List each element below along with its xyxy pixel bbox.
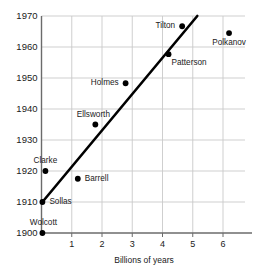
axis-spines bbox=[42, 16, 253, 233]
y-tick-label: 1900 bbox=[16, 228, 37, 238]
data-point-label: Sollas bbox=[49, 198, 71, 206]
gridlines bbox=[42, 16, 246, 233]
x-tick-label: 3 bbox=[122, 240, 142, 249]
y-tick-label: 1970 bbox=[16, 11, 37, 21]
x-tick-label: 2 bbox=[92, 240, 112, 249]
data-point-label: Wolcott bbox=[30, 219, 57, 227]
x-tick-label: 6 bbox=[213, 240, 233, 249]
data-point-marker bbox=[179, 23, 185, 29]
data-point-marker bbox=[75, 176, 81, 182]
x-axis-title: Billions of years bbox=[0, 256, 258, 265]
x-tick-label: 4 bbox=[153, 240, 173, 249]
y-tick-label: 1930 bbox=[16, 135, 37, 145]
y-tick-label: 1940 bbox=[16, 104, 37, 114]
data-point-marker bbox=[40, 199, 46, 205]
data-point-marker bbox=[43, 168, 49, 174]
data-point-label: Tilton bbox=[155, 22, 175, 30]
data-point-label: Clarke bbox=[34, 157, 58, 165]
data-point-marker bbox=[226, 30, 232, 36]
data-point-label: Holmes bbox=[91, 79, 119, 87]
x-tick-label: 5 bbox=[183, 240, 203, 249]
x-tick-label: 1 bbox=[62, 240, 82, 249]
y-tick-label: 1910 bbox=[16, 197, 37, 207]
y-tick-label: 1920 bbox=[16, 166, 37, 176]
data-point-marker bbox=[123, 80, 129, 86]
data-point-label: Polkanov bbox=[212, 39, 246, 47]
data-point-label: Barrell bbox=[85, 175, 109, 183]
data-point-marker bbox=[166, 51, 172, 57]
scatter-chart: 19001910192019301940195019601970 123456 … bbox=[0, 0, 258, 274]
y-tick-label: 1950 bbox=[16, 73, 37, 83]
data-point-marker bbox=[92, 122, 98, 128]
data-point-label: Patterson bbox=[172, 59, 207, 67]
data-point-marker bbox=[40, 230, 46, 236]
y-tick-label: 1960 bbox=[16, 42, 37, 52]
data-point-label: Ellsworth bbox=[77, 111, 110, 119]
